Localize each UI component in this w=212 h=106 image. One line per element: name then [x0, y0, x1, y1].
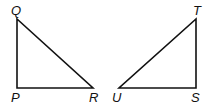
triangle-pqr — [17, 19, 93, 88]
vertex-label-p: P — [11, 90, 20, 105]
vertex-label-s: S — [191, 90, 200, 105]
vertex-label-q: Q — [11, 3, 21, 18]
vertex-label-t: T — [193, 3, 202, 18]
vertex-label-u: U — [112, 90, 122, 105]
vertex-label-r: R — [89, 90, 98, 105]
triangle-stu — [119, 19, 196, 88]
triangles-diagram: Q P R T S U — [0, 0, 212, 106]
